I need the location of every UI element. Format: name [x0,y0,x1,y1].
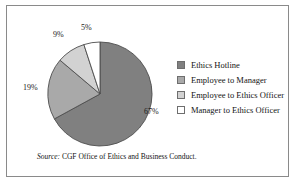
legend-item-employee-to-manager: Employee to Manager [177,73,293,87]
legend-label-employee-to-manager: Employee to Manager [191,75,267,85]
legend-label-ethics-hotline: Ethics Hotline [191,60,240,70]
source-label: Source: [37,152,60,161]
pie-label-employee-to-ethics-officer: 9% [53,30,64,39]
legend-swatch-icon-employee-to-ethics-officer [177,91,185,99]
legend-item-ethics-hotline: Ethics Hotline [177,58,293,72]
legend-swatch-icon-employee-to-manager [177,76,185,84]
pie-label-manager-to-ethics-officer: 5% [81,23,92,32]
pie-label-ethics-hotline: 67% [144,107,159,116]
legend-item-employee-to-ethics-officer: Employee to Ethics Officer [177,88,293,102]
pie-svg [43,37,157,151]
legend-swatch-icon-ethics-hotline [177,61,185,69]
source-text: CGF Office of Ethics and Business Conduc… [60,152,197,161]
chart-legend: Ethics Hotline Employee to Manager Emplo… [177,58,293,118]
legend-item-manager-to-ethics-officer: Manager to Ethics Officer [177,103,293,117]
legend-label-manager-to-ethics-officer: Manager to Ethics Officer [191,105,280,115]
pie-label-employee-to-manager: 19% [23,83,38,92]
legend-swatch-icon-manager-to-ethics-officer [177,106,185,114]
pie-chart-figure: 67% 19% 9% 5% Ethics Hotline Employee to… [0,0,296,185]
pie-chart-graphic [43,37,157,151]
figure-frame-border: 67% 19% 9% 5% Ethics Hotline Employee to… [6,5,289,177]
source-note: Source: CGF Office of Ethics and Busines… [37,152,197,162]
legend-label-employee-to-ethics-officer: Employee to Ethics Officer [191,90,284,100]
